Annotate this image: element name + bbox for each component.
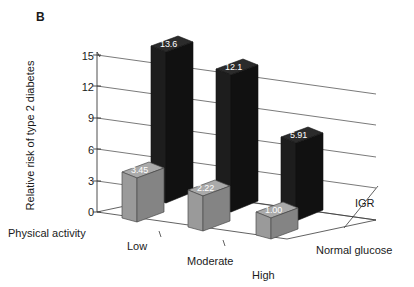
bar-value-igr-high: 5.91 — [290, 130, 307, 140]
figure-panel-b: B Relative risk of type 2 diabetes 0 3 6… — [0, 0, 414, 287]
bar-value-igr-moderate: 12.1 — [225, 62, 242, 72]
chart-canvas — [0, 0, 414, 287]
bar-value-normal-moderate: 2.22 — [197, 183, 214, 193]
bar-value-normal-low: 3.45 — [131, 165, 148, 175]
bar-value-igr-low: 13.6 — [160, 39, 177, 49]
bar-value-normal-high: 1.00 — [265, 205, 282, 215]
depth-axis — [344, 186, 378, 228]
y-axis — [93, 52, 101, 212]
x-axis-ticks — [159, 231, 225, 246]
